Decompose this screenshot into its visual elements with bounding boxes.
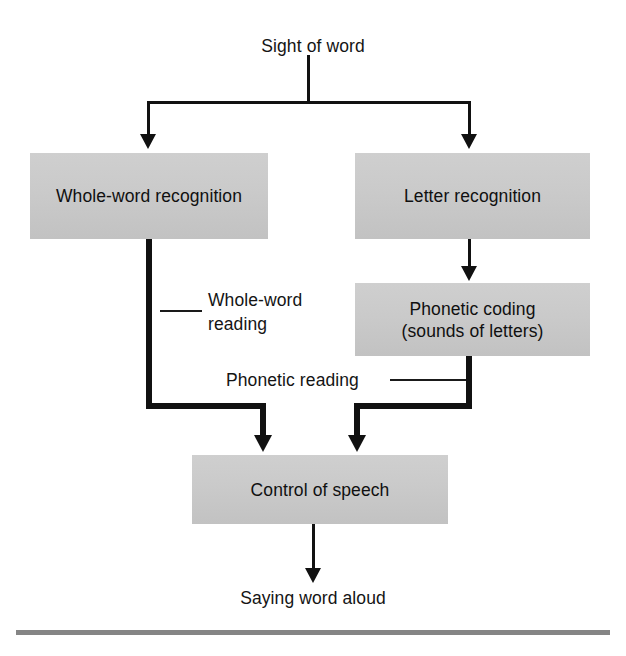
connector-phonetic-route-horizontal — [354, 403, 472, 409]
node-letter-recognition[interactable]: Letter recognition — [355, 153, 590, 239]
node-control-of-speech-label: Control of speech — [251, 479, 390, 501]
connector-control-to-output — [312, 524, 315, 572]
figure-canvas: Sight of word Whole-word recognition Let… — [0, 0, 626, 656]
connector-whole-word-route-descent — [260, 403, 266, 437]
node-letter-recognition-label: Letter recognition — [404, 185, 541, 207]
route-label-phonetic-reading: Phonetic reading — [226, 370, 359, 391]
connector-input-crossbar — [147, 101, 471, 104]
arrowhead-into-output — [305, 568, 321, 583]
node-whole-word-recognition[interactable]: Whole-word recognition — [30, 153, 268, 239]
arrowhead-phonetic-into-control — [348, 435, 366, 452]
leader-line-whole-word-reading — [160, 310, 202, 312]
connector-phonetic-route-vertical — [466, 356, 472, 409]
connector-whole-word-route-vertical — [146, 239, 152, 409]
connector-input-stem — [307, 55, 310, 104]
node-phonetic-coding[interactable]: Phonetic coding (sounds of letters) — [355, 283, 590, 356]
bottom-divider-rule — [16, 630, 610, 635]
node-control-of-speech[interactable]: Control of speech — [192, 455, 448, 524]
output-label-saying-word-aloud: Saying word aloud — [0, 588, 626, 609]
arrowhead-into-phonetic-coding — [461, 266, 477, 281]
connector-phonetic-route-descent — [354, 403, 360, 437]
arrowhead-into-letter — [461, 134, 477, 149]
connector-letter-to-phonetic — [468, 239, 471, 267]
leader-line-phonetic-reading — [390, 379, 466, 381]
connector-whole-word-route-horizontal — [146, 403, 266, 409]
connector-input-to-letter — [468, 101, 471, 137]
arrowhead-whole-word-into-control — [254, 435, 272, 452]
node-phonetic-coding-label: Phonetic coding (sounds of letters) — [402, 298, 544, 342]
arrowhead-into-whole-word — [140, 134, 156, 149]
input-label-sight-of-word: Sight of word — [0, 36, 626, 57]
route-label-whole-word-reading: Whole-word reading — [208, 288, 358, 336]
node-whole-word-recognition-label: Whole-word recognition — [56, 185, 242, 207]
cut-off-caption-strip — [0, 0, 626, 8]
connector-input-to-whole-word — [147, 101, 150, 137]
